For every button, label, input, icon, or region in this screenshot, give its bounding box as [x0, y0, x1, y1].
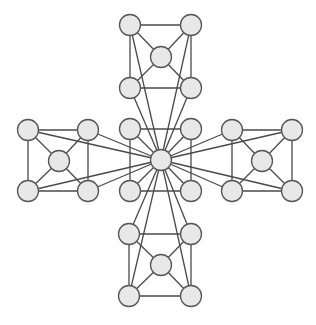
node-r_tr — [282, 120, 303, 141]
node-t_bl — [120, 78, 141, 99]
node-c_tr — [181, 119, 202, 140]
node-b_br — [181, 286, 202, 307]
node-b_tr — [181, 224, 202, 245]
node-c_bl — [120, 181, 141, 202]
nodes-layer — [18, 15, 303, 307]
node-t_tr — [181, 15, 202, 36]
node-b_tl — [119, 224, 140, 245]
node-l_tl — [18, 120, 39, 141]
node-t_br — [181, 78, 202, 99]
node-c_br — [181, 181, 202, 202]
graph-diagram — [0, 0, 316, 325]
node-l_br — [78, 181, 99, 202]
node-t_tl — [120, 15, 141, 36]
node-l_c — [49, 151, 70, 172]
node-r_br — [282, 181, 303, 202]
node-c_tl — [120, 119, 141, 140]
node-b_c — [151, 255, 172, 276]
node-t_c — [151, 47, 172, 68]
node-b_bl — [119, 286, 140, 307]
node-r_c — [252, 151, 273, 172]
node-l_tr — [78, 120, 99, 141]
node-r_tl — [222, 120, 243, 141]
node-hub — [151, 150, 172, 171]
node-l_bl — [18, 181, 39, 202]
node-r_bl — [222, 181, 243, 202]
